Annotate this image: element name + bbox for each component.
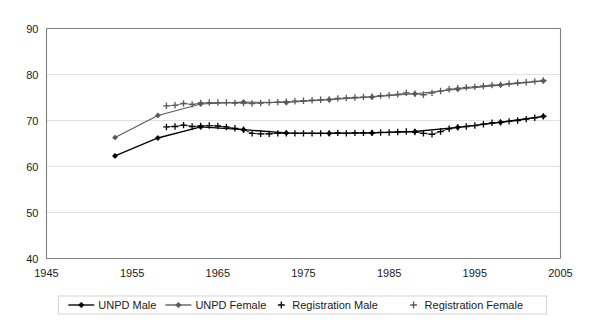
data-point-marker: [309, 97, 315, 103]
data-point-marker: [283, 130, 289, 136]
data-point-marker: [403, 128, 409, 134]
legend-label: UNPD Male: [98, 299, 156, 311]
x-tick-label: 1985: [377, 267, 401, 279]
gridlines: [47, 29, 561, 213]
data-point-marker: [377, 92, 383, 98]
x-tick-label: 1955: [120, 267, 144, 279]
data-point-marker: [275, 99, 281, 105]
data-point-marker: [480, 83, 486, 89]
data-point-marker: [429, 131, 435, 137]
y-tick-label: 80: [26, 69, 38, 81]
y-tick-label: 60: [26, 161, 38, 173]
data-point-marker: [283, 98, 289, 104]
data-point-marker: [489, 82, 495, 88]
data-point-marker: [360, 130, 366, 136]
data-point-marker: [506, 81, 512, 87]
data-point-marker: [172, 102, 178, 108]
data-point-marker: [540, 113, 546, 119]
data-point-marker: [215, 99, 221, 105]
data-point-marker: [112, 153, 117, 158]
x-tick-label: 2005: [548, 267, 572, 279]
data-point-marker: [377, 129, 383, 135]
data-point-marker: [163, 103, 169, 109]
data-point-marker: [395, 129, 401, 135]
plot-border: [47, 29, 561, 259]
x-axis-tick-labels: 1945195519651975198519952005: [34, 267, 572, 279]
data-point-marker: [523, 116, 529, 122]
data-point-marker: [206, 99, 212, 105]
data-point-marker: [523, 79, 529, 85]
data-point-marker: [275, 130, 281, 136]
series-line: [115, 81, 543, 138]
series-registration-female: [163, 77, 546, 109]
data-point-marker: [223, 99, 229, 105]
data-point-marker: [198, 123, 204, 129]
data-point-marker: [386, 129, 392, 135]
chart-container: 405060708090 194519551965197519851995200…: [0, 0, 605, 333]
data-point-marker: [455, 124, 461, 130]
data-point-marker: [497, 81, 503, 87]
series-registration-male: [163, 113, 546, 137]
data-point-marker: [155, 113, 160, 118]
series-line: [166, 80, 543, 105]
data-point-marker: [300, 98, 306, 104]
data-point-marker: [532, 115, 538, 121]
data-point-marker: [292, 98, 298, 104]
data-point-marker: [455, 85, 461, 91]
y-tick-label: 70: [26, 115, 38, 127]
x-tick-label: 1945: [34, 267, 58, 279]
data-point-marker: [326, 130, 332, 136]
y-tick-label: 40: [26, 253, 38, 265]
data-point-marker: [386, 92, 392, 98]
legend-item-registration-male[interactable]: Registration Male: [278, 299, 378, 311]
data-point-marker: [369, 93, 375, 99]
data-point-marker: [540, 77, 546, 83]
data-point-marker: [472, 84, 478, 90]
data-point-marker: [352, 94, 358, 100]
data-point-marker: [463, 84, 469, 90]
data-point-marker: [317, 130, 323, 136]
data-point-marker: [480, 121, 486, 127]
data-point-marker: [309, 130, 315, 136]
data-point-marker: [412, 129, 418, 135]
data-point-marker: [180, 100, 186, 106]
data-point-marker: [360, 94, 366, 100]
data-point-marker: [412, 91, 418, 97]
data-point-marker: [369, 130, 375, 136]
x-tick-label: 1995: [463, 267, 487, 279]
legend-label: Registration Female: [425, 299, 523, 311]
data-point-marker: [437, 88, 443, 94]
chart-legend: UNPD MaleUNPD FemaleRegistration MaleReg…: [58, 296, 546, 314]
data-point-marker: [343, 95, 349, 101]
data-point-marker: [249, 100, 255, 106]
data-point-marker: [232, 125, 238, 131]
data-point-marker: [335, 95, 341, 101]
data-point-marker: [112, 135, 117, 140]
data-point-marker: [155, 135, 160, 140]
data-point-marker: [446, 126, 452, 132]
data-point-marker: [506, 118, 512, 124]
x-tick-label: 1975: [291, 267, 315, 279]
legend-label: UNPD Female: [195, 299, 266, 311]
data-point-marker: [335, 130, 341, 136]
data-point-marker: [514, 80, 520, 86]
y-axis-tick-labels: 405060708090: [26, 23, 38, 265]
data-point-marker: [446, 86, 452, 92]
data-point-marker: [257, 100, 263, 106]
data-point-marker: [180, 122, 186, 128]
axis-frame: [47, 29, 561, 259]
data-point-marker: [292, 130, 298, 136]
data-point-marker: [429, 90, 435, 96]
line-chart: 405060708090 194519551965197519851995200…: [0, 0, 605, 333]
data-series-layer: [112, 77, 546, 158]
legend-label: Registration Male: [292, 299, 378, 311]
data-point-marker: [163, 124, 169, 130]
legend-item-registration-female[interactable]: Registration Female: [410, 299, 523, 311]
data-point-marker: [352, 130, 358, 136]
y-tick-label: 50: [26, 207, 38, 219]
data-point-marker: [532, 78, 538, 84]
data-point-marker: [514, 117, 520, 123]
data-point-marker: [472, 122, 478, 128]
data-point-marker: [300, 130, 306, 136]
data-point-marker: [395, 91, 401, 97]
